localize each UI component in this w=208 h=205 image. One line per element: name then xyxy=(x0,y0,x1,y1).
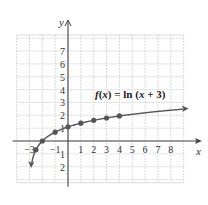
data-point xyxy=(40,138,45,143)
x-tick-label: 4 xyxy=(117,144,122,155)
function-label: f(x) = ln (x + 3) xyxy=(95,88,166,101)
x-axis-label: x xyxy=(195,145,201,157)
y-tick-label: 7 xyxy=(60,46,65,57)
y-tick-label: 3 xyxy=(60,97,65,108)
x-tick-label: 7 xyxy=(155,144,160,155)
x-tick-label: 1 xyxy=(78,144,83,155)
grid xyxy=(17,35,184,183)
function-curve xyxy=(28,105,188,168)
y-tick-label: 4 xyxy=(60,85,65,96)
x-tick-label: −3 xyxy=(24,144,35,155)
y-tick-label: 2 xyxy=(60,110,65,121)
y-tick-label: 6 xyxy=(60,59,65,70)
x-tick-label: 2 xyxy=(91,144,96,155)
y-axis-label: y xyxy=(58,16,64,28)
x-tick-label: 8 xyxy=(168,144,173,155)
data-point xyxy=(78,121,83,126)
data-point xyxy=(33,147,38,152)
data-point xyxy=(53,130,58,135)
data-point xyxy=(65,124,70,129)
x-tick-label: 5 xyxy=(130,144,135,155)
x-tick-label: 3 xyxy=(104,144,109,155)
data-point xyxy=(104,115,109,120)
axes: x y xyxy=(13,16,202,187)
y-tick-label: 2 xyxy=(60,162,65,173)
data-point xyxy=(91,118,96,123)
data-point xyxy=(117,113,122,118)
x-tick-label: −1 xyxy=(50,144,61,155)
log-function-chart: x y −3−112345678765432112 f(x) = ln (x +… xyxy=(0,0,208,205)
y-tick-label: 5 xyxy=(60,72,65,83)
y-tick-label: 1 xyxy=(60,149,65,160)
x-tick-label: 6 xyxy=(143,144,148,155)
